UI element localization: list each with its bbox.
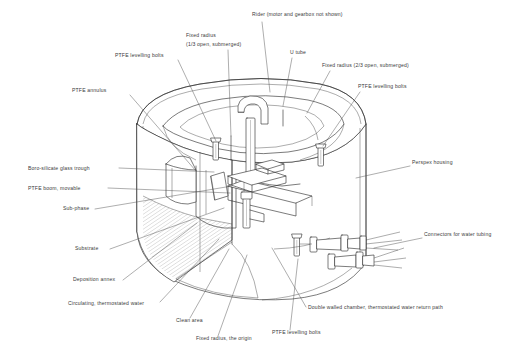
label-fixed-radius-org: Fixed radius, the origin — [196, 335, 252, 341]
label-ptfe-annulus: PTFE annulus — [72, 87, 107, 93]
label-ptfe-bolts-top: PTFE levelling bolts — [115, 52, 164, 58]
label-ptfe-bolts-right: PTFE levelling bolts — [358, 83, 407, 89]
label-ptfe-bolts-bot: PTFE levelling bolts — [272, 329, 321, 335]
label-fixed-radius-13: Fixed radius — [186, 32, 216, 38]
diagram-canvas: Rider (motor and gearbox not shown)Fixed… — [0, 0, 524, 359]
label-substrate: Substrate — [75, 245, 98, 251]
label-glass-trough: Boro-silicate glass trough — [28, 165, 90, 171]
label-perspex-housing: Perspex housing — [412, 159, 453, 165]
label-clean-area: Clean area — [176, 317, 203, 323]
label-rider: Rider (motor and gearbox not shown) — [252, 11, 343, 17]
label-fixed-radius-13b: (1/3 open, submerged) — [186, 41, 241, 47]
label-deposition-annex: Deposition annex — [73, 276, 116, 282]
label-circ-water: Circulating, thermostated water — [68, 300, 144, 306]
technical-diagram-figure: Rider (motor and gearbox not shown)Fixed… — [0, 0, 524, 359]
label-ptfe-boom: PTFE boom, movable — [28, 185, 81, 191]
label-u-tube: U tube — [290, 49, 306, 55]
label-double-walled: Double walled chamber, thermostated wate… — [308, 304, 443, 310]
label-sub-phase: Sub-phase — [63, 205, 89, 211]
label-connectors: Connectors for water tubing — [424, 231, 491, 237]
label-fixed-radius-23: Fixed radius (2/3 open, submerged) — [322, 62, 409, 68]
